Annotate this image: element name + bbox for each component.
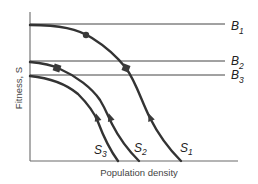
s2-curve bbox=[30, 62, 139, 161]
y-axis-title: Fitness, S bbox=[13, 67, 24, 109]
s1-circle-marker bbox=[83, 32, 89, 38]
x-axis-title: Population density bbox=[100, 167, 178, 178]
s1-label: S1 bbox=[180, 141, 193, 157]
s2-label: S2 bbox=[134, 141, 147, 157]
fitness-density-diagram: B1 B2 B3 S3 S2 S1 Population density Fit… bbox=[0, 0, 258, 184]
s2-square-marker bbox=[53, 64, 62, 73]
b1-label: B1 bbox=[231, 19, 244, 36]
s3-label: S3 bbox=[94, 143, 107, 159]
